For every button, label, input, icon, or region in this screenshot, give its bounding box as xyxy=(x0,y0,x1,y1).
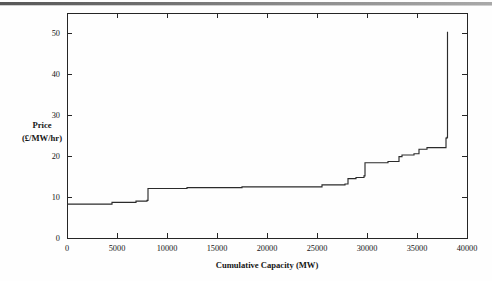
x-tick-label-10000: 10000 xyxy=(157,244,178,253)
y-axis-title-line1: Price xyxy=(32,120,51,130)
x-axis-ticks-top xyxy=(67,13,467,18)
supply-curve-chart: 0500010000150002000025000300003500040000… xyxy=(0,0,492,281)
y-tick-label-10: 10 xyxy=(52,193,60,202)
y-tick-label-50: 50 xyxy=(52,29,60,38)
x-tick-label-20000: 20000 xyxy=(257,244,278,253)
x-axis-title: Cumulative Capacity (MW) xyxy=(216,260,319,270)
x-tick-label-30000: 30000 xyxy=(357,244,378,253)
x-tick-label-35000: 35000 xyxy=(407,244,428,253)
y-tick-label-40: 40 xyxy=(52,70,60,79)
x-tick-label-15000: 15000 xyxy=(207,244,228,253)
y-axis-ticks-left xyxy=(67,33,72,238)
x-tick-label-25000: 25000 xyxy=(307,244,328,253)
plot-frame xyxy=(67,13,467,238)
y-axis-ticks-right xyxy=(462,33,467,238)
supply-step-curve xyxy=(67,32,448,204)
page-background: 0500010000150002000025000300003500040000… xyxy=(0,0,492,281)
y-tick-label-30: 30 xyxy=(52,111,60,120)
y-tick-label-0: 0 xyxy=(56,234,60,243)
x-axis-tick-labels: 0500010000150002000025000300003500040000 xyxy=(65,244,477,253)
y-axis-title-line2: (£/MW/hr) xyxy=(22,133,62,143)
chart-figure: 0500010000150002000025000300003500040000… xyxy=(0,0,492,281)
x-tick-label-5000: 5000 xyxy=(109,244,126,253)
x-tick-label-0: 0 xyxy=(65,244,69,253)
y-tick-label-20: 20 xyxy=(52,152,60,161)
x-axis-ticks-bottom xyxy=(67,233,467,238)
x-tick-label-40000: 40000 xyxy=(457,244,478,253)
